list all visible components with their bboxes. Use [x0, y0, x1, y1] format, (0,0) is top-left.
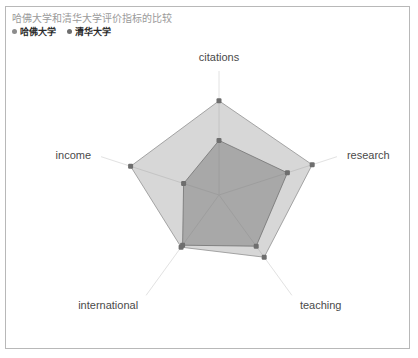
data-point-international[interactable]: [180, 243, 185, 248]
data-point-teaching[interactable]: [262, 255, 267, 260]
axis-label-international: international: [78, 299, 138, 311]
axis-label-research: research: [347, 149, 390, 161]
data-point-citations[interactable]: [217, 98, 222, 103]
series-polygons: [131, 101, 313, 257]
radar-chart: citationsresearchteachinginternationalin…: [6, 7, 411, 350]
chart-panel: 哈佛大学和清华大学评价指标的比较 哈佛大学 清华大学 citationsrese…: [5, 6, 410, 349]
data-point-income[interactable]: [128, 164, 133, 169]
data-point-teaching[interactable]: [254, 244, 259, 249]
data-point-research[interactable]: [285, 170, 290, 175]
data-point-citations[interactable]: [217, 138, 222, 143]
axis-label-citations: citations: [199, 51, 240, 63]
axis-label-income: income: [56, 149, 91, 161]
axis-label-teaching: teaching: [300, 299, 342, 311]
data-point-research[interactable]: [310, 162, 315, 167]
data-point-income[interactable]: [181, 181, 186, 186]
